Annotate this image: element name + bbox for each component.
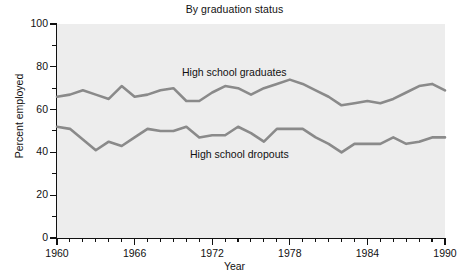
x-tick-minor-1974 xyxy=(237,238,238,242)
y-tick-minor-90 xyxy=(52,45,57,46)
y-tick-label-100: 100 xyxy=(8,17,48,29)
x-tick-minor-1988 xyxy=(419,238,420,242)
x-tick-minor-1963 xyxy=(95,238,96,242)
x-axis-title: Year xyxy=(0,260,469,272)
x-tick-label-1984: 1984 xyxy=(347,247,387,259)
x-tick-minor-1973 xyxy=(225,238,226,242)
y-tick-minor-30 xyxy=(52,173,57,174)
x-tick-label-1972: 1972 xyxy=(192,247,232,259)
x-tick-minor-1967 xyxy=(147,238,148,242)
x-tick-minor-1979 xyxy=(302,238,303,242)
x-tick-minor-1982 xyxy=(341,238,342,242)
x-tick-major-1990 xyxy=(444,238,445,245)
x-tick-minor-1976 xyxy=(263,238,264,242)
x-tick-major-1966 xyxy=(134,238,135,245)
x-tick-major-1978 xyxy=(289,238,290,245)
x-tick-minor-1983 xyxy=(354,238,355,242)
x-tick-minor-1964 xyxy=(108,238,109,242)
y-tick-label-0: 0 xyxy=(8,231,48,243)
chart-title: By graduation status xyxy=(0,3,469,15)
y-tick-minor-70 xyxy=(52,88,57,89)
x-tick-minor-1962 xyxy=(82,238,83,242)
x-tick-label-1966: 1966 xyxy=(115,247,155,259)
y-tick-minor-10 xyxy=(52,216,57,217)
x-tick-minor-1968 xyxy=(160,238,161,242)
x-tick-major-1960 xyxy=(56,238,57,245)
series-label-high-school-graduates: High school graduates xyxy=(182,66,286,78)
y-tick-major-40 xyxy=(50,152,57,153)
x-tick-minor-1987 xyxy=(406,238,407,242)
y-tick-major-80 xyxy=(50,66,57,67)
y-axis-title: Percent employed xyxy=(13,46,25,186)
x-tick-minor-1969 xyxy=(173,238,174,242)
y-tick-major-60 xyxy=(50,109,57,110)
y-tick-major-100 xyxy=(50,23,57,24)
x-tick-minor-1965 xyxy=(121,238,122,242)
x-tick-label-1960: 1960 xyxy=(37,247,77,259)
x-tick-major-1972 xyxy=(212,238,213,245)
x-tick-minor-1970 xyxy=(186,238,187,242)
x-tick-minor-1986 xyxy=(393,238,394,242)
x-tick-minor-1977 xyxy=(276,238,277,242)
x-tick-minor-1981 xyxy=(328,238,329,242)
series-label-high-school-dropouts: High school dropouts xyxy=(190,148,289,160)
x-tick-minor-1971 xyxy=(199,238,200,242)
x-tick-label-1978: 1978 xyxy=(270,247,310,259)
y-tick-minor-50 xyxy=(52,130,57,131)
x-tick-minor-1961 xyxy=(69,238,70,242)
x-tick-minor-1985 xyxy=(380,238,381,242)
x-tick-minor-1989 xyxy=(431,238,432,242)
y-tick-major-20 xyxy=(50,195,57,196)
x-tick-major-1984 xyxy=(367,238,368,245)
plot-area xyxy=(57,24,445,238)
chart-container: By graduation status 020406080100 196019… xyxy=(0,0,469,277)
y-tick-label-20: 20 xyxy=(8,188,48,200)
x-tick-label-1990: 1990 xyxy=(425,247,465,259)
x-tick-minor-1975 xyxy=(250,238,251,242)
x-tick-minor-1980 xyxy=(315,238,316,242)
